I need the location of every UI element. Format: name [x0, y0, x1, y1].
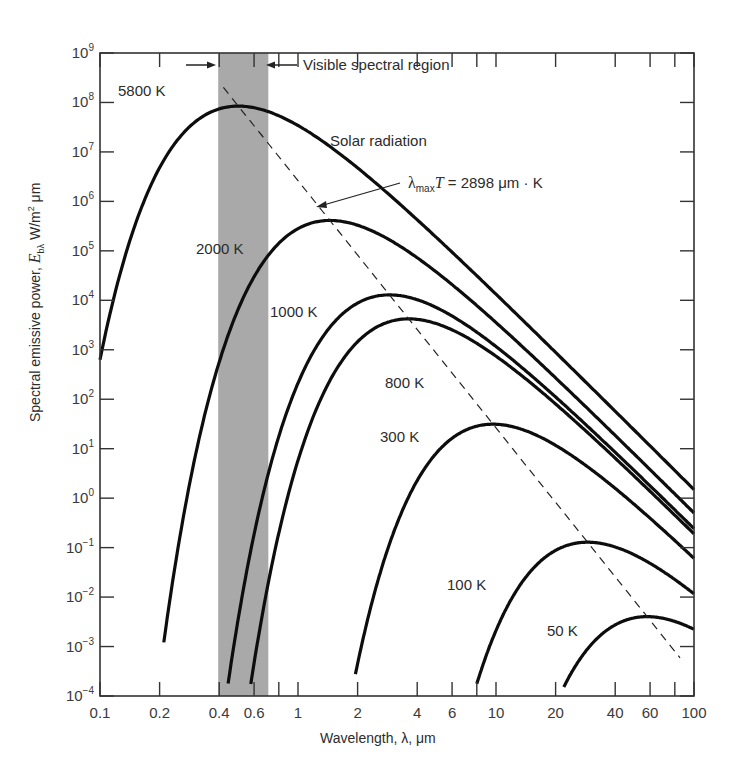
- y-tick-label: 102: [72, 388, 95, 407]
- x-tick-label: 1: [294, 704, 302, 721]
- x-tick-label: 4: [413, 704, 421, 721]
- wien-annotation: λmaxT = 2898 μm · K: [316, 174, 543, 208]
- curve-label-100k: 100 K: [447, 576, 486, 593]
- x-tick-label: 0.1: [90, 704, 111, 721]
- y-tick-label: 103: [72, 339, 95, 358]
- curve-label-300k: 300 K: [380, 428, 419, 445]
- x-tick-label: 2: [353, 704, 361, 721]
- x-tick-label: 20: [547, 704, 564, 721]
- curve-50k: [564, 617, 694, 687]
- y-tick-label: 108: [72, 91, 95, 110]
- wien-pointer-arrow-icon: [316, 201, 327, 208]
- y-tick-label: 109: [72, 42, 95, 61]
- solar-radiation-label: Solar radiation: [330, 132, 427, 149]
- visible-region-label: Visible spectral region: [303, 56, 449, 73]
- y-tick-label: 10−2: [66, 586, 95, 605]
- x-tick-label: 60: [642, 704, 659, 721]
- x-tick-label: 0.2: [149, 704, 170, 721]
- y-axis-title: Spectral emissive power, Ebλ W/m2 μm: [26, 183, 46, 422]
- curve-label-50k: 50 K: [547, 622, 578, 639]
- curves: [100, 106, 694, 687]
- y-tick-label: 101: [72, 438, 95, 457]
- x-tick-label: 0.4: [209, 704, 230, 721]
- y-tick-label: 10−4: [66, 685, 95, 704]
- visible-band-rect: [218, 53, 268, 696]
- y-tick-label: 10−3: [66, 636, 95, 655]
- curve-label-5800k: 5800 K: [118, 82, 166, 99]
- x-tick-label: 40: [607, 704, 624, 721]
- x-tick-label: 6: [448, 704, 456, 721]
- blackbody-spectral-chart: 0.10.20.40.61246102040601001091081071061…: [0, 0, 737, 773]
- curve-100k: [477, 542, 694, 684]
- y-tick-label: 10−1: [66, 537, 95, 556]
- x-tick-label: 0.6: [244, 704, 265, 721]
- curve-labels: 5800 K2000 K1000 K800 K300 K100 K50 K: [118, 82, 578, 639]
- y-tick-label: 106: [72, 190, 95, 209]
- curve-label-800k: 800 K: [385, 374, 424, 391]
- wien-displacement-line: [223, 87, 680, 657]
- y-tick-label: 100: [72, 487, 95, 506]
- curve-label-1000k: 1000 K: [270, 303, 318, 320]
- x-tick-label: 100: [681, 704, 706, 721]
- visible-band: [218, 53, 268, 696]
- curve-label-2000k: 2000 K: [196, 240, 244, 257]
- wien-dashed-line: [223, 87, 680, 657]
- curve-800k: [251, 319, 694, 684]
- x-tick-label: 10: [488, 704, 505, 721]
- y-tick-label: 105: [72, 240, 95, 259]
- y-tick-label: 107: [72, 141, 95, 160]
- arrow-right-icon: [207, 62, 216, 69]
- y-tick-label: 104: [72, 289, 95, 308]
- wien-law-label: λmaxT = 2898 μm · K: [408, 174, 543, 194]
- curve-1000k: [228, 295, 694, 684]
- x-axis-title: Wavelength, λ, μm: [320, 730, 436, 746]
